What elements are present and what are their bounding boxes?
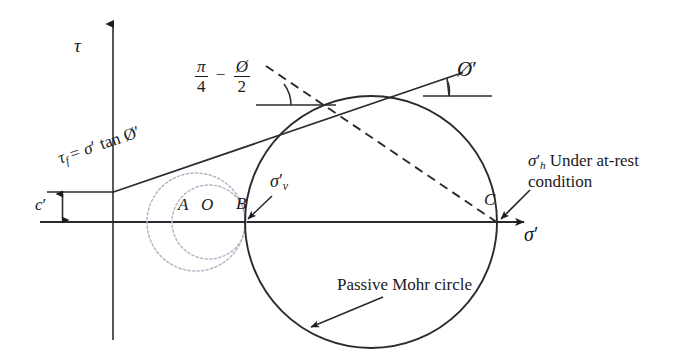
- sigma-h-subscript: h: [540, 159, 546, 171]
- mohr-circle-figure: τ σ′ A O B C c′ σ′v σ′hUnder at-rest con…: [0, 0, 688, 359]
- at-rest-text-line2: condition: [528, 173, 639, 191]
- point-label-a: A: [178, 196, 188, 214]
- pi-numerator: π: [195, 58, 208, 77]
- cohesion-label: c′: [35, 196, 46, 214]
- minus-sign: −: [216, 66, 226, 84]
- tau-axis-label: τ: [74, 36, 81, 56]
- point-label-b: B: [236, 195, 246, 213]
- pole-angle-arc: [284, 84, 291, 105]
- sigma-axis-label: σ′: [524, 224, 538, 245]
- phi-angle-closing-stroke: [447, 78, 449, 96]
- at-rest-text-line1: Under at-rest: [550, 151, 639, 170]
- pole-dashed-line: [266, 66, 498, 223]
- pole-angle-expression: π 4 − Ø 2: [195, 58, 250, 95]
- passive-circle-leader-line: [311, 297, 383, 327]
- cohesion-prime: ′: [43, 195, 47, 214]
- phi-prime-mark: ′: [472, 57, 477, 81]
- sigma-v-leader-line: [248, 196, 272, 219]
- pi-over-four-fraction: π 4: [195, 58, 208, 95]
- sigma-axis-prime: ′: [534, 223, 538, 245]
- point-label-c: C: [484, 191, 495, 209]
- passive-mohr-circle-caption: Passive Mohr circle: [337, 276, 472, 294]
- sigma-h-leader-line: [501, 190, 530, 219]
- sigma-v-label: σ′v: [270, 172, 288, 193]
- four-denominator: 4: [195, 77, 208, 95]
- phi-prime-angle-label: Ø′: [457, 58, 477, 80]
- phi-over-two-fraction: Ø 2: [234, 58, 250, 95]
- sigma-h-at-rest-label: σ′hUnder at-rest condition: [528, 152, 639, 191]
- phi-numerator: Ø: [234, 58, 250, 77]
- sigma-v-subscript: v: [283, 179, 288, 193]
- point-label-o: O: [201, 196, 213, 214]
- two-denominator: 2: [234, 77, 250, 95]
